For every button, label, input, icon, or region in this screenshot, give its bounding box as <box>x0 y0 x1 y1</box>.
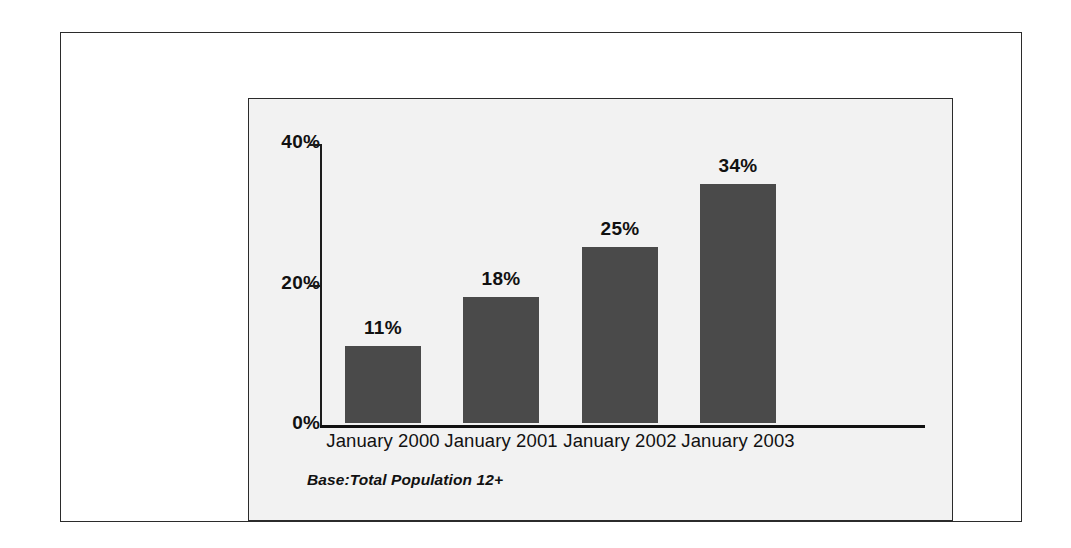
y-axis-tick-label: 40% <box>262 131 320 153</box>
y-axis-tick-mark <box>309 285 320 287</box>
bar-january-2003 <box>700 184 776 423</box>
bar-value-label: 18% <box>443 268 559 290</box>
bar-value-label: 11% <box>325 317 441 339</box>
y-axis-line <box>320 144 322 427</box>
category-label-january-2003: January 2003 <box>663 430 813 452</box>
bar-january-2002 <box>582 247 658 423</box>
chart-panel: 0%20%40% 11%18%25%34% January 2000Januar… <box>248 98 953 521</box>
bar-value-label: 25% <box>562 218 678 240</box>
bar-value-label: 34% <box>680 155 796 177</box>
y-axis-tick-label: 20% <box>262 272 320 294</box>
bar-january-2001 <box>463 297 539 423</box>
y-axis-tick-mark <box>309 144 320 146</box>
x-axis-line <box>320 425 925 428</box>
bar-january-2000 <box>345 346 421 423</box>
document-page-frame: 0%20%40% 11%18%25%34% January 2000Januar… <box>60 32 1022 522</box>
chart-footnote: Base:Total Population 12+ <box>307 471 503 489</box>
plot-area: 0%20%40% 11%18%25%34% January 2000Januar… <box>249 99 952 520</box>
